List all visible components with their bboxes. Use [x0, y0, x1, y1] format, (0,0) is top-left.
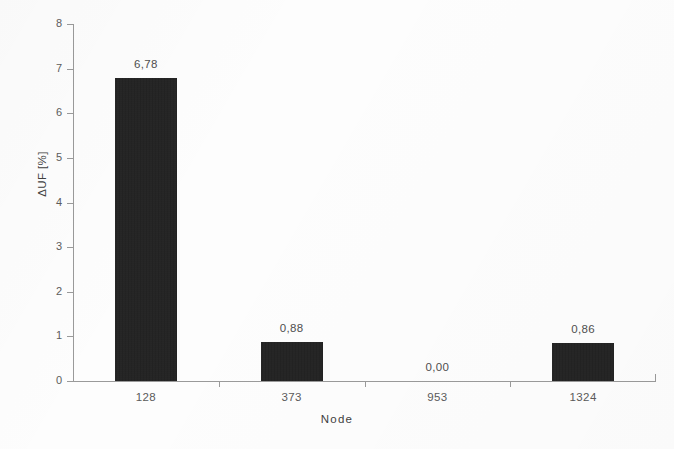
y-tick-label: 2 — [48, 285, 62, 297]
y-tick-mark — [67, 158, 73, 159]
y-tick-mark — [67, 381, 73, 382]
y-tick-label: 5 — [48, 151, 62, 163]
x-tick-mark — [219, 381, 220, 387]
y-tick-label: 1 — [48, 329, 62, 341]
x-tick-label: 373 — [252, 391, 332, 403]
y-tick-mark — [67, 69, 73, 70]
bar-value-label: 6,78 — [106, 58, 186, 70]
y-tick-mark — [67, 113, 73, 114]
y-tick-mark — [67, 336, 73, 337]
y-tick-label: 4 — [48, 196, 62, 208]
bar-value-label: 0,00 — [397, 361, 477, 373]
y-tick-label: 0 — [48, 374, 62, 386]
y-axis-line — [73, 24, 74, 382]
y-tick-mark — [67, 203, 73, 204]
bar — [552, 343, 614, 381]
x-tick-label: 128 — [106, 391, 186, 403]
y-tick-label: 3 — [48, 240, 62, 252]
x-axis-title: Node — [0, 413, 674, 425]
x-tick-mark — [365, 381, 366, 387]
x-tick-label: 1324 — [543, 391, 623, 403]
y-tick-label: 7 — [48, 62, 62, 74]
y-axis-title: ΔUF [%] — [36, 126, 48, 222]
x-tick-mark — [510, 381, 511, 387]
bar-value-label: 0,86 — [543, 323, 623, 335]
y-tick-mark — [67, 247, 73, 248]
y-tick-label: 6 — [48, 106, 62, 118]
y-tick-mark — [67, 292, 73, 293]
bar-chart-figure: ΔUF [%] 012345678 1283739531324 6,780,88… — [0, 0, 674, 449]
bar — [115, 78, 177, 381]
bar — [261, 342, 323, 381]
x-tick-label: 953 — [397, 391, 477, 403]
y-tick-label: 8 — [48, 17, 62, 29]
bar-value-label: 0,88 — [252, 322, 332, 334]
y-tick-mark — [67, 24, 73, 25]
x-axis-end-cap — [655, 374, 656, 382]
